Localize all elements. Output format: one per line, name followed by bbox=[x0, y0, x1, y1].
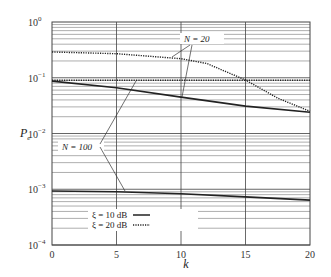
y-tick-label: 10−1 bbox=[28, 71, 46, 84]
y-tick-label: 10−2 bbox=[28, 127, 46, 140]
y-tick-label: 100 bbox=[28, 15, 42, 28]
x-axis-label: k bbox=[183, 257, 189, 271]
legend-label-20db: ξ = 20 dB bbox=[92, 220, 127, 230]
x-tick-label: 5 bbox=[114, 249, 119, 260]
arrow-n100-dotted bbox=[100, 81, 136, 144]
x-tick-label: 0 bbox=[50, 249, 55, 260]
y-tick-label: 10−3 bbox=[28, 182, 46, 195]
annotation-n20: N = 20 bbox=[183, 34, 210, 44]
legend: ξ = 10 dB ξ = 20 dB bbox=[88, 209, 198, 231]
arrow-n20-solid bbox=[182, 45, 192, 97]
error-probability-chart: 0510152010010−110−210−310−4 k Pe N = 20 … bbox=[0, 0, 331, 277]
arrow-n100-solid bbox=[100, 147, 125, 191]
annotation-n100: N = 100 bbox=[61, 142, 93, 152]
x-tick-label: 20 bbox=[305, 249, 315, 260]
x-tick-label: 15 bbox=[241, 249, 251, 260]
y-tick-label: 10−4 bbox=[28, 238, 46, 251]
legend-label-10db: ξ = 10 dB bbox=[92, 210, 127, 220]
